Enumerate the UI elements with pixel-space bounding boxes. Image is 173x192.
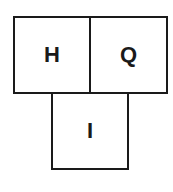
cell-h: H	[13, 16, 91, 94]
cell-label: Q	[120, 42, 137, 68]
cell-label: H	[44, 42, 60, 68]
cell-q: Q	[89, 16, 168, 94]
cell-label: I	[87, 118, 93, 144]
cell-i: I	[51, 92, 129, 170]
